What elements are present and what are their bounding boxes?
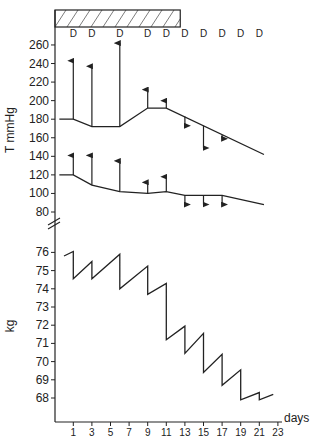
dialysis-marker-label: D [237,28,244,39]
weight-series [64,251,273,399]
y-tick-label: 200 [29,94,49,108]
hatched-bar [55,10,180,27]
x-tick-label: 15 [198,427,210,437]
weight-line [64,251,273,399]
y-tick-label: 240 [29,57,49,71]
y-tick-label: 71 [36,336,50,350]
x-tick-label: 1 [71,427,77,437]
y-tick-label: 180 [29,112,49,126]
y-tick-label: 140 [29,149,49,163]
dialysis-marker-label: D [218,28,225,39]
x-tick-label: 21 [254,427,266,437]
y-tick-label: 72 [36,318,50,332]
kg-y-ticks: 686970717273747576 [36,245,55,405]
x-tick-label: 9 [145,427,151,437]
kg-axis-title: kg [3,320,17,333]
bp-y-ticks: 80100120140160180200220240260 [29,38,55,219]
x-axis-title: days [284,411,309,425]
hemodialysis-chart: DDDDDDDDDD 80100120140160180200220240260… [0,0,317,437]
y-tick-label: 220 [29,75,49,89]
x-tick-label: 23 [272,427,284,437]
bp-series [59,43,264,204]
y-tick-label: 260 [29,38,49,52]
y-axis [48,10,60,422]
y-tick-label: 100 [29,186,49,200]
y-tick-label: 69 [36,373,50,387]
dialysis-marker-label: D [144,28,151,39]
y-tick-label: 74 [36,282,50,296]
x-tick-label: 17 [217,427,229,437]
x-tick-label: 3 [89,427,95,437]
dialysis-markers: DDDDDDDDDD [70,28,263,39]
x-tick-label: 5 [108,427,114,437]
x-tick-label: 7 [126,427,132,437]
treatment-bar [55,10,180,27]
dialysis-marker-label: D [116,28,123,39]
bp-axis-title: T mmHg [3,107,17,153]
x-tick-label: 19 [235,427,247,437]
x-ticks: 1357911131517192123 [71,422,284,437]
y-tick-label: 80 [36,205,50,219]
bp-line [59,175,264,205]
dialysis-marker-label: D [70,28,77,39]
y-tick-label: 160 [29,131,49,145]
dialysis-marker-label: D [200,28,207,39]
dialysis-marker-label: D [88,28,95,39]
axis-break-icon [48,218,60,229]
bp-line [59,108,264,154]
x-tick-label: 13 [179,427,191,437]
y-tick-label: 70 [36,355,50,369]
dialysis-marker-label: D [256,28,263,39]
x-tick-label: 11 [161,427,172,437]
y-tick-label: 73 [36,300,50,314]
y-tick-label: 120 [29,168,49,182]
dialysis-marker-label: D [163,28,170,39]
dialysis-marker-label: D [181,28,188,39]
y-tick-label: 75 [36,264,50,278]
y-tick-label: 68 [36,391,50,405]
y-tick-label: 76 [36,245,50,259]
